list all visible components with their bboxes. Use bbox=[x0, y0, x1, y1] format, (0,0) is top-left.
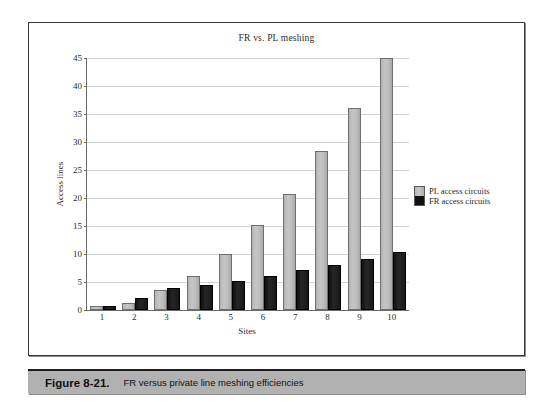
bar-group bbox=[187, 58, 213, 310]
bar-group bbox=[315, 58, 341, 310]
legend-labels: PL access circuits FR access circuits bbox=[429, 186, 490, 206]
legend-swatches bbox=[414, 186, 425, 206]
bar-pl-access-circuits bbox=[122, 303, 135, 310]
bar-group bbox=[348, 58, 374, 310]
bar-pl-access-circuits bbox=[90, 306, 103, 310]
y-axis-tick-label: 20 bbox=[73, 193, 82, 203]
x-axis-tick-label: 7 bbox=[281, 312, 309, 322]
y-axis-tick-label: 35 bbox=[73, 109, 82, 119]
y-axis-tick-label: 15 bbox=[73, 221, 82, 231]
bar-fr-access-circuits bbox=[167, 288, 180, 310]
bar-fr-access-circuits bbox=[264, 276, 277, 310]
figure-caption-text: FR versus private line meshing efficienc… bbox=[124, 377, 304, 388]
plot-area: 051015202530354045 bbox=[86, 58, 409, 311]
x-axis-tick-label: 9 bbox=[346, 312, 374, 322]
bar-fr-access-circuits bbox=[328, 265, 341, 310]
bar-group bbox=[380, 58, 406, 310]
x-axis-ticks: 12345678910 bbox=[86, 312, 408, 322]
bar-pl-access-circuits bbox=[251, 225, 264, 310]
y-axis-tick-label: 10 bbox=[73, 249, 82, 259]
y-axis-tick-label: 30 bbox=[73, 137, 82, 147]
bar-group bbox=[283, 58, 309, 310]
x-axis-tick-label: 10 bbox=[378, 312, 406, 322]
chart-legend: PL access circuits FR access circuits bbox=[414, 186, 490, 206]
x-axis-tick-label: 3 bbox=[152, 312, 180, 322]
bar-group bbox=[154, 58, 180, 310]
x-axis-tick-label: 8 bbox=[313, 312, 341, 322]
bar-group bbox=[122, 58, 148, 310]
legend-label-fr: FR access circuits bbox=[429, 196, 490, 206]
bar-fr-access-circuits bbox=[135, 298, 148, 310]
chart-title: FR vs. PL meshing bbox=[29, 33, 524, 43]
y-axis-tick-label: 25 bbox=[73, 165, 82, 175]
bar-pl-access-circuits bbox=[380, 58, 393, 310]
x-axis-tick-label: 4 bbox=[185, 312, 213, 322]
bar-pl-access-circuits bbox=[348, 108, 361, 310]
bar-fr-access-circuits bbox=[296, 270, 309, 310]
x-axis-tick-label: 5 bbox=[217, 312, 245, 322]
figure-caption-band: Figure 8-21. FR versus private line mesh… bbox=[28, 369, 525, 394]
x-axis-title: Sites bbox=[86, 326, 408, 336]
bar-pl-access-circuits bbox=[219, 254, 232, 310]
bar-fr-access-circuits bbox=[393, 252, 406, 310]
legend-label-pl: PL access circuits bbox=[429, 186, 490, 196]
y-axis-tick-label: 45 bbox=[73, 53, 82, 63]
bar-pl-access-circuits bbox=[187, 276, 200, 310]
bar-pl-access-circuits bbox=[315, 151, 328, 310]
bar-group bbox=[251, 58, 277, 310]
bar-fr-access-circuits bbox=[103, 306, 116, 310]
legend-swatch-pl bbox=[415, 187, 424, 196]
bar-fr-access-circuits bbox=[200, 285, 213, 310]
figure-number: Figure 8-21. bbox=[45, 377, 110, 389]
bars-layer bbox=[87, 58, 409, 310]
bar-group bbox=[90, 58, 116, 310]
bar-group bbox=[219, 58, 245, 310]
legend-swatch-fr bbox=[415, 196, 424, 205]
bar-pl-access-circuits bbox=[154, 290, 167, 310]
x-axis-tick-label: 1 bbox=[88, 312, 116, 322]
y-axis-tick-label: 0 bbox=[78, 305, 83, 315]
x-axis-tick-label: 2 bbox=[120, 312, 148, 322]
x-axis-tick-label: 6 bbox=[249, 312, 277, 322]
y-axis-tick-label: 40 bbox=[73, 81, 82, 91]
bar-fr-access-circuits bbox=[232, 281, 245, 310]
y-axis-tick-mark bbox=[84, 310, 87, 311]
y-axis-tick-label: 5 bbox=[78, 277, 83, 287]
bar-fr-access-circuits bbox=[361, 259, 374, 310]
bar-pl-access-circuits bbox=[283, 194, 296, 310]
y-axis-title: Access lines bbox=[55, 162, 65, 207]
figure-frame: FR vs. PL meshing Access lines 051015202… bbox=[28, 22, 525, 356]
